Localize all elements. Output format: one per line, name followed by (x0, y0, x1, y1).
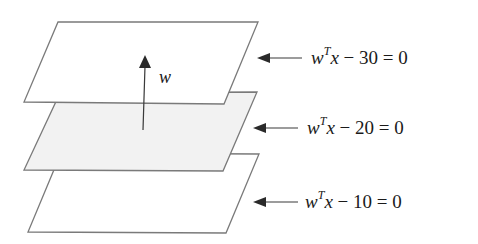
top-plane (24, 22, 258, 104)
equation-top: wTx − 30 = 0 (311, 48, 408, 67)
label-arrow-bottom (253, 197, 298, 207)
equation-middle-w: w (307, 117, 320, 138)
equation-top-w: w (311, 47, 324, 68)
equation-middle-rest: − 20 = 0 (335, 117, 404, 138)
equation-middle: wTx − 20 = 0 (307, 118, 404, 137)
label-arrow-middle (253, 123, 298, 133)
label-arrow-top (257, 53, 302, 63)
equation-middle-x: x (326, 117, 334, 138)
hyperplanes-diagram (0, 0, 478, 244)
equation-bottom: wTx − 10 = 0 (305, 192, 402, 211)
equation-bottom-rest: − 10 = 0 (333, 191, 402, 212)
equation-top-rest: − 30 = 0 (339, 47, 408, 68)
normal-vector-label: w (159, 67, 171, 88)
equation-top-x: x (330, 47, 338, 68)
equation-bottom-x: x (324, 191, 332, 212)
equation-bottom-w: w (305, 191, 318, 212)
